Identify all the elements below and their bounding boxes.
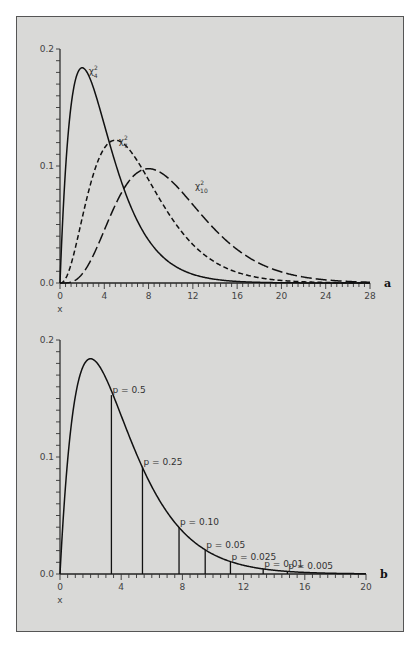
panel-a-chi-squared-densities: 0481216202428x0.00.10.2χ24χ27χ210a	[40, 44, 391, 314]
series-label: χ24	[89, 64, 98, 79]
y-tick-label: 0.0	[40, 569, 55, 579]
x-tick-label: 4	[118, 582, 124, 592]
x-axis-label: x	[57, 304, 63, 314]
x-tick-label: 0	[57, 582, 63, 592]
y-tick-label: 0.1	[40, 161, 54, 171]
quantile-label: p = 0.10	[180, 517, 219, 527]
panel-b-chi-squared-quantiles: 048121620x0.00.10.2p = 0.5p = 0.25p = 0.…	[40, 335, 388, 605]
quantile-label: p = 0.5	[112, 385, 145, 395]
quantile-label: p = 0.25	[143, 457, 182, 467]
quantile-label: p = 0.05	[206, 540, 245, 550]
curve-chi2-df4	[60, 68, 370, 283]
curve-chi2-df10	[60, 169, 370, 283]
x-tick-label: 16	[231, 291, 243, 301]
x-tick-label: 20	[360, 582, 372, 592]
x-tick-label: 4	[101, 291, 107, 301]
chi-squared-figure: 0481216202428x0.00.10.2χ24χ27χ210a 04812…	[0, 0, 420, 648]
series-label: χ27	[119, 134, 128, 149]
y-tick-label: 0.2	[40, 335, 54, 345]
x-tick-label: 12	[187, 291, 198, 301]
x-tick-label: 24	[320, 291, 332, 301]
x-tick-label: 12	[238, 582, 249, 592]
series-label: χ210	[195, 179, 208, 194]
x-tick-label: 0	[57, 291, 63, 301]
x-tick-label: 16	[299, 582, 311, 592]
panel-label: a	[384, 277, 391, 290]
y-tick-label: 0.2	[40, 44, 54, 54]
quantile-label: p = 0.005	[288, 561, 333, 571]
curve-chi2-df7	[60, 140, 370, 283]
panel-label: b	[380, 568, 388, 581]
y-tick-label: 0.1	[40, 452, 54, 462]
x-tick-label: 28	[364, 291, 376, 301]
x-tick-label: 8	[146, 291, 152, 301]
x-tick-label: 8	[180, 582, 186, 592]
y-tick-label: 0.0	[40, 278, 55, 288]
x-tick-label: 20	[276, 291, 288, 301]
x-axis-label: x	[57, 595, 63, 605]
